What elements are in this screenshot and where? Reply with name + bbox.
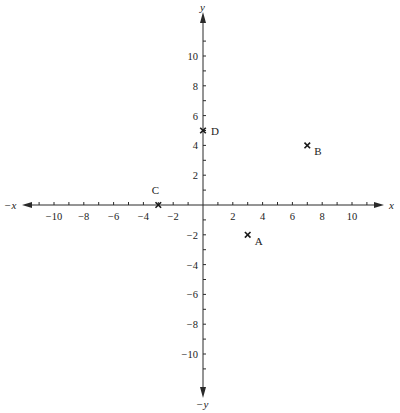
y-axis-negative-label: −y xyxy=(196,398,208,410)
x-tick-label: 8 xyxy=(320,211,325,222)
data-point-a: A xyxy=(245,232,263,247)
point-label: A xyxy=(255,235,263,247)
chart-svg: x−xy−y−10−8−6−4−2246810−10−8−6−4−2246810… xyxy=(0,0,400,413)
y-axis-label: y xyxy=(199,1,205,13)
point-label: C xyxy=(152,184,159,196)
x-axis-arrow-right-icon xyxy=(374,202,384,208)
x-axis-label: x xyxy=(388,199,394,211)
data-point-b: B xyxy=(305,143,322,158)
y-tick-label: −4 xyxy=(187,260,199,271)
y-tick-label: −6 xyxy=(187,289,198,300)
y-axis-arrow-up-icon xyxy=(200,12,206,23)
x-tick-label: 4 xyxy=(260,211,266,222)
y-axis-arrow-down-icon xyxy=(200,387,206,398)
point-label: D xyxy=(211,125,219,137)
data-points: ABCD xyxy=(152,125,322,247)
x-tick-label: −8 xyxy=(78,211,89,222)
axes xyxy=(22,12,384,398)
y-tick-label: 4 xyxy=(193,140,199,151)
y-tick-label: 2 xyxy=(193,170,198,181)
x-tick-label: 10 xyxy=(347,211,358,222)
y-tick-label: −10 xyxy=(182,349,198,360)
x-tick-label: 6 xyxy=(290,211,295,222)
y-tick-label: −8 xyxy=(187,319,198,330)
y-tick-label: 10 xyxy=(188,51,199,62)
y-tick-label: 6 xyxy=(193,111,198,122)
x-axis-negative-label: −x xyxy=(4,199,16,211)
x-tick-label: 2 xyxy=(230,211,235,222)
coordinate-plane: x−xy−y−10−8−6−4−2246810−10−8−6−4−2246810… xyxy=(0,0,400,413)
y-tick-label: −2 xyxy=(187,230,198,241)
x-tick-label: −2 xyxy=(168,211,179,222)
x-tick-label: −6 xyxy=(108,211,119,222)
point-label: B xyxy=(314,145,321,157)
x-axis-arrow-left-icon xyxy=(22,202,32,208)
x-tick-label: −4 xyxy=(138,211,150,222)
x-tick-label: −10 xyxy=(46,211,62,222)
data-point-c: C xyxy=(152,184,161,208)
y-tick-label: 8 xyxy=(193,81,198,92)
